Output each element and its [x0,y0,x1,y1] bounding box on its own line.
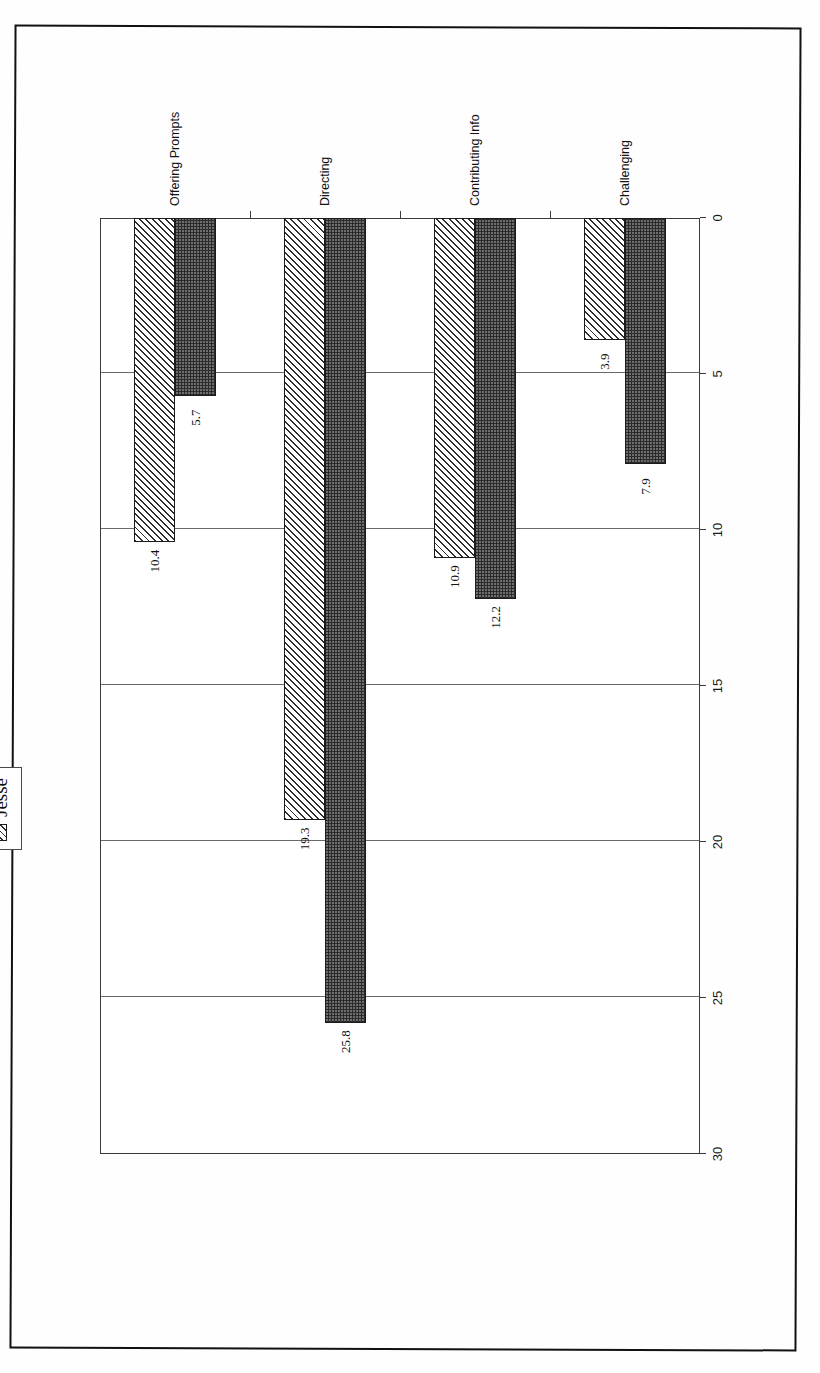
bar-neil-contributing-info [475,218,516,599]
value-axis-tick [700,529,706,530]
gridline [101,528,699,529]
jesse-swatch-icon [0,824,7,841]
bar-jesse-directing [284,218,325,820]
chart-legend: Neil Jesse [0,766,22,849]
legend-label-jesse: Jesse [0,777,10,816]
bar-jesse-offering-prompts [134,218,175,542]
category-axis-tick [550,211,551,218]
value-axis-tick [700,685,706,686]
bar-neil-directing [325,218,366,1023]
gridline [101,996,699,997]
bar-neil-offering-prompts [175,218,216,396]
scanned-page: Neil Jesse 051015202530Challenging3.97.9… [0,0,820,1373]
value-axis-tick [700,841,706,842]
bar-neil-challenging [625,218,666,464]
bar-chart: Neil Jesse 051015202530Challenging3.97.9… [60,132,760,1242]
category-label: Offering Prompts [168,111,182,205]
bar-value-label: 19.3 [297,827,313,850]
category-label: Challenging [618,139,632,205]
bar-value-label: 25.8 [338,1030,354,1053]
category-axis-tick [250,211,251,218]
bar-value-label: 12.2 [488,605,504,628]
bar-jesse-contributing-info [434,218,475,558]
value-axis-tick-label: 25 [710,990,725,1004]
bar-jesse-challenging [584,218,625,340]
legend-item-jesse: Jesse [0,777,10,840]
value-axis-tick-label: 10 [710,522,725,536]
value-axis-tick-label: 20 [710,834,725,848]
gridline [101,684,699,685]
bar-value-label: 10.9 [447,565,463,588]
rotated-chart-container: Neil Jesse 051015202530Challenging3.97.9… [60,132,760,1242]
value-axis-tick [700,1153,706,1154]
category-label: Directing [318,156,332,205]
value-axis-tick-label: 5 [710,370,725,377]
value-axis-tick [700,997,706,998]
bar-value-label: 3.9 [597,353,613,369]
value-axis-tick [700,373,706,374]
gridline [101,840,699,841]
value-axis-tick [700,217,706,218]
bar-value-label: 10.4 [147,549,163,572]
value-axis-tick-label: 30 [710,1146,725,1160]
category-axis-tick [400,211,401,218]
bar-value-label: 5.7 [188,409,204,425]
bar-value-label: 7.9 [638,478,654,494]
category-label: Contributing Info [468,114,482,206]
value-axis-tick-label: 15 [710,678,725,692]
value-axis-tick-label: 0 [710,214,725,221]
